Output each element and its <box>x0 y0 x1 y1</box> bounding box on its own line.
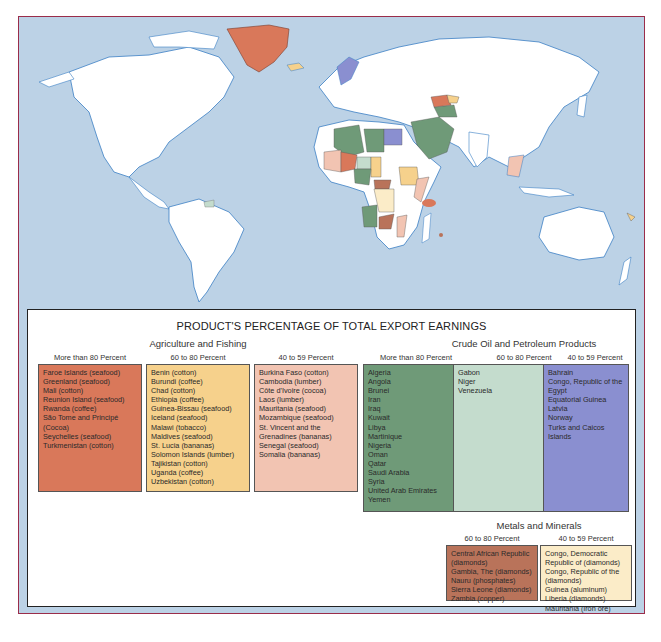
legend-title: PRODUCT'S PERCENTAGE OF TOTAL EXPORT EAR… <box>28 320 635 332</box>
legend-item: Angola <box>368 377 453 386</box>
legend-item: Uganda (coffee) <box>151 468 245 477</box>
legend-item: Benin (cotton) <box>151 368 245 377</box>
legend-item: Bahrain <box>548 368 624 377</box>
legend-box-agri-80plus: Faroe Islands (seafood)Greenland (seafoo… <box>38 364 142 492</box>
legend-item: St. Vincent and the Grenadines (bananas) <box>259 423 353 441</box>
world-map <box>19 17 644 307</box>
legend-item: Somalia (bananas) <box>259 450 353 459</box>
group-title-oil: Crude Oil and Petroleum Products <box>364 338 661 349</box>
legend-item: Uzbekistan (cotton) <box>151 477 245 486</box>
legend-item: United Arab Emirates <box>368 486 453 495</box>
legend-item: Chad (cotton) <box>151 386 245 395</box>
column-heading: More than 80 Percent <box>364 353 468 362</box>
legend-box-metals-60-80: Central African Republic (diamonds)Gambi… <box>446 545 538 601</box>
australia <box>539 207 614 260</box>
legend-item: Latvia <box>548 404 624 413</box>
legend-item: Côte d'Ivoire (cocoa) <box>259 386 353 395</box>
legend-item: St. Lucia (bananas) <box>151 441 245 450</box>
column-heading: More than 80 Percent <box>38 353 142 362</box>
legend-item: Iceland (seafood) <box>151 413 245 422</box>
legend-item: Qatar <box>368 459 453 468</box>
legend-box-oil-60-80: GabonNigerVenezuela <box>453 364 547 512</box>
legend-item: Mozambique (seafood) <box>259 413 353 422</box>
legend-item: Cambodia (lumber) <box>259 377 353 386</box>
legend-item: Iraq <box>368 404 453 413</box>
legend-item: Senegal (seafood) <box>259 441 353 450</box>
legend-item: Liberia (diamonds) <box>545 594 627 603</box>
legend-item: Oman <box>368 450 453 459</box>
legend-item: Burkina Faso (cotton) <box>259 368 353 377</box>
legend-item: Nigeria <box>368 441 453 450</box>
map-frame: PRODUCT'S PERCENTAGE OF TOTAL EXPORT EAR… <box>18 16 645 614</box>
legend-item: São Tome and Principé (Cocoa) <box>43 413 137 431</box>
legend-item: Central African Republic (diamonds) <box>451 549 533 567</box>
legend-item: Libya <box>368 423 453 432</box>
legend-item: Solomon Islands (lumber) <box>151 450 245 459</box>
legend-item: Tajikistan (cotton) <box>151 459 245 468</box>
legend-item: Turks and Caicos Islands <box>548 423 624 441</box>
legend-item: Kuwait <box>368 413 453 422</box>
legend-item: Burundi (coffee) <box>151 377 245 386</box>
legend-item: Venezuela <box>458 386 542 395</box>
legend-box-oil-40-59: BahrainCongo, Republic of theEgyptEquato… <box>543 364 629 512</box>
legend-item: Seychelles (seafood) <box>43 432 137 441</box>
legend-item: Ethiopia (coffee) <box>151 395 245 404</box>
legend-item: Norway <box>548 413 624 422</box>
legend-item: Mali (cotton) <box>43 386 137 395</box>
legend-item: Maldives (seafood) <box>151 432 245 441</box>
legend-item: Nauru (phosphates) <box>451 576 533 585</box>
legend-box-agri-40-59: Burkina Faso (cotton)Cambodia (lumber)Cô… <box>254 364 358 492</box>
legend-item: Gabon <box>458 368 542 377</box>
legend-item: Yemen <box>368 495 453 504</box>
legend-item: Algeria <box>368 368 453 377</box>
column-heading: 60 to 80 Percent <box>146 353 250 362</box>
column-heading: 40 to 59 Percent <box>254 353 358 362</box>
legend-item: Laos (lumber) <box>259 395 353 404</box>
legend-item: Sierra Leone (diamonds) <box>451 585 533 594</box>
legend-item: Martinique <box>368 432 453 441</box>
legend-item: Reunion Island (seafood) <box>43 395 137 404</box>
group-title-agriculture: Agriculture and Fishing <box>38 338 358 349</box>
legend-item: Turkmenistan (cotton) <box>43 441 137 450</box>
legend-item: Brunei <box>368 386 453 395</box>
legend-box-oil-80plus: AlgeriaAngolaBruneiIranIraqKuwaitLibyaMa… <box>363 364 458 512</box>
legend-item: Congo, Republic of the <box>548 377 624 386</box>
column-heading: 40 to 59 Percent <box>540 534 632 543</box>
legend-box-agri-60-80: Benin (cotton)Burundi (coffee)Chad (cott… <box>146 364 250 492</box>
legend-item: Equatorial Guinea <box>548 395 624 404</box>
column-heading: 40 to 59 Percent <box>543 353 647 362</box>
legend-item: Malawi (tobacco) <box>151 423 245 432</box>
legend-item: Greenland (seafood) <box>43 377 137 386</box>
group-title-metals: Metals and Minerals <box>446 520 632 531</box>
legend-item: Guinea (aluminum) <box>545 585 627 594</box>
legend-item: Mauritania (seafood) <box>259 404 353 413</box>
legend-item: Congo, Democratic Republic of (diamonds) <box>545 549 627 567</box>
legend-box-metals-40-59: Congo, Democratic Republic of (diamonds)… <box>540 545 632 601</box>
legend-item: Faroe Islands (seafood) <box>43 368 137 377</box>
legend-item: Saudi Arabia <box>368 468 453 477</box>
legend-item: Mauritania (iron ore) <box>545 604 627 613</box>
legend-item: Iran <box>368 395 453 404</box>
legend-item: Niger <box>458 377 542 386</box>
legend-item: Rwanda (coffee) <box>43 404 137 413</box>
legend-item: Gambia, The (diamonds) <box>451 567 533 576</box>
legend-item: Zambia (copper) <box>451 594 533 603</box>
column-heading: 60 to 80 Percent <box>446 534 538 543</box>
legend-panel: PRODUCT'S PERCENTAGE OF TOTAL EXPORT EAR… <box>27 309 636 607</box>
legend-item: Congo, Republic of the (diamonds) <box>545 567 627 585</box>
legend-item: Syria <box>368 477 453 486</box>
legend-item: Guinea-Bissau (seafood) <box>151 404 245 413</box>
legend-item: Egypt <box>548 386 624 395</box>
